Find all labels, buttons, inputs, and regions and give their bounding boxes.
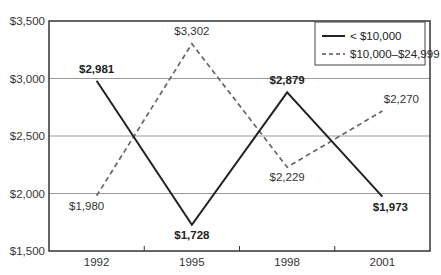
y-tick-label: $1,500 — [10, 245, 45, 257]
x-tick-label: 2001 — [370, 256, 396, 268]
x-axis-ticks: 1992199519982001 — [84, 246, 395, 268]
line-chart: $1,500$2,000$2,500$3,000$3,500 199219951… — [0, 0, 441, 275]
x-tick-label: 1995 — [179, 256, 205, 268]
y-tick-label: $3,000 — [10, 73, 45, 85]
data-label-10000-24999: $2,270 — [384, 93, 419, 105]
data-label-10000-24999: $1,980 — [69, 200, 104, 212]
x-tick-label: 1992 — [84, 256, 110, 268]
series-line-10000-24999 — [97, 44, 383, 196]
data-label-10000-24999: $2,229 — [270, 171, 305, 183]
legend: < $10,000 $10,000–$24,999 — [315, 22, 440, 65]
legend-label-2: $10,000–$24,999 — [350, 48, 440, 60]
data-label-under-10000: $1,728 — [174, 229, 210, 241]
y-axis-ticks: $1,500$2,000$2,500$3,000$3,500 — [10, 15, 45, 257]
y-tick-label: $3,500 — [10, 15, 45, 27]
series-line-under-10000 — [97, 81, 383, 225]
x-tick-label: 1998 — [274, 256, 300, 268]
data-label-10000-24999: $3,302 — [174, 25, 209, 37]
data-label-under-10000: $2,879 — [270, 74, 305, 86]
data-label-under-10000: $2,981 — [79, 63, 115, 75]
data-series — [97, 44, 383, 225]
y-tick-label: $2,000 — [10, 188, 45, 200]
legend-label-1: < $10,000 — [350, 30, 401, 42]
data-label-under-10000: $1,973 — [373, 201, 408, 213]
y-tick-label: $2,500 — [10, 130, 45, 142]
